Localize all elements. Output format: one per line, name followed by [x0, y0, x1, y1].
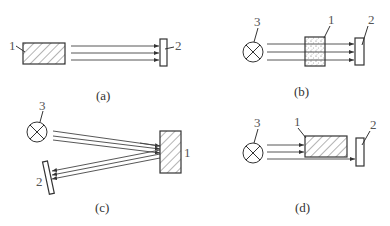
- label-object: 1: [328, 12, 335, 27]
- label-detector: 2: [175, 38, 182, 53]
- ray: [53, 140, 160, 153]
- leader-line: [362, 26, 368, 45]
- label-source: 3: [39, 98, 46, 113]
- label-detector: 2: [368, 12, 375, 27]
- panel-b: 3 1 2 (b): [243, 12, 375, 99]
- label-source: 3: [254, 115, 261, 130]
- object-1-hatched: [305, 136, 347, 157]
- light-source-3: [243, 143, 263, 163]
- ray: [52, 154, 160, 175]
- detector-2: [160, 39, 167, 66]
- label-detector: 2: [370, 117, 377, 132]
- leader-line: [254, 28, 258, 42]
- caption-b: (b): [294, 84, 309, 99]
- optical-sensing-diagram: 1 2 (a) 3 1 2 (b) 3: [0, 0, 390, 226]
- label-source: 3: [254, 14, 261, 29]
- label-detector: 2: [36, 174, 43, 189]
- light-source-3: [27, 122, 47, 142]
- panel-d: 3 1 2 (d): [243, 114, 377, 215]
- panel-a: 1 2 (a): [9, 38, 182, 103]
- panel-c: 3 1 2 (c): [27, 98, 191, 215]
- ray: [52, 158, 160, 179]
- detector-2-tilted: [43, 161, 55, 194]
- label-object: 1: [294, 114, 301, 129]
- caption-d: (d): [295, 200, 310, 215]
- caption-c: (c): [95, 200, 109, 215]
- ray: [53, 136, 160, 149]
- object-1-hatched: [160, 131, 181, 173]
- caption-a: (a): [96, 88, 110, 103]
- label-object: 1: [184, 145, 191, 160]
- label-object: 1: [9, 38, 16, 53]
- ray: [52, 150, 160, 171]
- leader-line: [298, 128, 306, 138]
- ray: [140, 143, 160, 146]
- light-source-3: [243, 42, 263, 62]
- object-1-hatched: [23, 43, 65, 64]
- detector-2: [356, 138, 364, 166]
- object-1-dotted: [305, 37, 325, 66]
- leader-line: [254, 129, 258, 143]
- leader-line: [324, 26, 330, 38]
